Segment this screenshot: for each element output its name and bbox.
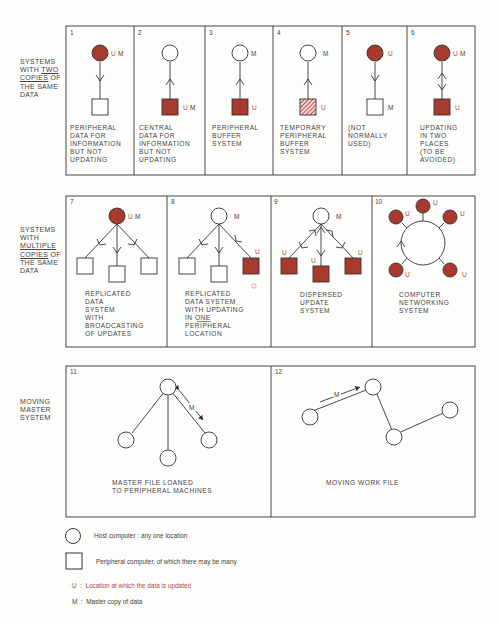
- host-computer-icon: [160, 450, 176, 466]
- svg-text:REPLICATED: REPLICATED: [85, 290, 131, 297]
- host-computer-icon: [162, 45, 178, 61]
- svg-text:USED): USED): [348, 140, 371, 148]
- host-computer-icon: [92, 45, 108, 61]
- svg-text:UPDATE: UPDATE: [300, 299, 329, 306]
- svg-text:M: M: [135, 213, 140, 220]
- svg-text:M: M: [336, 213, 341, 220]
- peripheral-computer-icon: [211, 266, 227, 282]
- legend-update: U : Location at which the data is update…: [72, 582, 191, 589]
- peripheral-computer-icon: [434, 99, 450, 115]
- svg-text:SYSTEM: SYSTEM: [212, 140, 242, 147]
- legend-host: Host computer : any one location: [94, 532, 187, 539]
- host-computer-icon: [443, 210, 457, 224]
- svg-text:U: U: [455, 104, 460, 111]
- svg-text:COMPUTER: COMPUTER: [399, 291, 441, 298]
- host-computer-icon: [232, 45, 248, 61]
- svg-text:INFORMATION: INFORMATION: [70, 140, 121, 147]
- peripheral-computer-icon: [232, 99, 248, 115]
- legend-icons: [66, 529, 83, 570]
- svg-text:IN ONE: IN ONE: [185, 314, 211, 321]
- svg-text:2: 2: [138, 29, 142, 36]
- svg-text:U: U: [388, 50, 393, 57]
- peripheral-computer-icon: [243, 258, 259, 274]
- panel-2: 2 UM CENTRAL DATA FOR INFORMATION BUT NO…: [138, 29, 195, 163]
- host-computer-icon: [443, 263, 457, 277]
- svg-text:U: U: [311, 257, 316, 264]
- svg-text:5: 5: [346, 29, 350, 36]
- svg-text:11: 11: [70, 368, 77, 375]
- host-computer-icon: [118, 432, 134, 448]
- peripheral-computer-icon: [281, 258, 297, 274]
- panel-12: 12 M MOVING WORK FILE: [275, 368, 458, 486]
- svg-text:MASTER FILE LOANED: MASTER FILE LOANED: [112, 479, 193, 486]
- svg-text:SYSTEM: SYSTEM: [85, 306, 115, 313]
- panel-10: 10 U U U U U COMPUTER NETWORKING SYSTEM: [375, 198, 467, 314]
- svg-text:M: M: [251, 50, 256, 57]
- panel-11: 11 M MASTER FILE LOANED TO PERIPHERAL MA…: [70, 368, 217, 494]
- host-computer-icon: [300, 45, 316, 61]
- svg-text:WITH UPDATING: WITH UPDATING: [185, 306, 244, 313]
- peripheral-computer-icon: [345, 258, 361, 274]
- legend-master: M : Master copy of data: [72, 598, 142, 605]
- svg-text:WITH: WITH: [85, 314, 104, 321]
- svg-text:M: M: [323, 50, 328, 57]
- network-ring: [401, 221, 445, 265]
- peripheral-computer-legend-icon: [66, 553, 82, 569]
- svg-text:1: 1: [70, 29, 74, 36]
- svg-text:U: U: [282, 249, 287, 256]
- svg-text:PERIPHERAL: PERIPHERAL: [212, 124, 259, 131]
- svg-text:SYSTEM: SYSTEM: [280, 148, 310, 155]
- svg-text:U: U: [252, 104, 257, 111]
- host-computer-icon: [109, 208, 125, 224]
- peripheral-computer-icon: [141, 258, 157, 274]
- svg-text:BUFFER: BUFFER: [212, 132, 241, 139]
- svg-text:8: 8: [171, 198, 175, 205]
- svg-text:U: U: [255, 248, 260, 255]
- legend-peripheral: Peripheral computer, of which there may …: [96, 558, 237, 565]
- svg-text:(NOT: (NOT: [348, 124, 366, 132]
- diagram-canvas: 1 UM PERIPHERAL DATA FOR INFORMATION BUT…: [0, 0, 499, 624]
- svg-text:U: U: [405, 271, 410, 278]
- svg-text:CENTRAL: CENTRAL: [139, 124, 173, 131]
- svg-text:PERIPHERAL: PERIPHERAL: [185, 322, 232, 329]
- svg-text:9: 9: [274, 198, 278, 205]
- svg-text:U: U: [321, 104, 326, 111]
- row-two-copies: [66, 26, 475, 175]
- svg-text:M: M: [388, 104, 393, 111]
- host-computer-icon: [313, 208, 329, 224]
- svg-text:OF UPDATES: OF UPDATES: [85, 330, 132, 337]
- host-computer-icon: [367, 45, 383, 61]
- svg-text:(TO BE: (TO BE: [420, 148, 445, 156]
- svg-text:SYSTEM: SYSTEM: [300, 307, 330, 314]
- svg-text:UPDATING: UPDATING: [70, 156, 108, 163]
- svg-text:M: M: [334, 391, 339, 398]
- svg-text:DATA FOR: DATA FOR: [70, 132, 106, 139]
- svg-text:AVOIDED): AVOIDED): [420, 156, 455, 164]
- host-computer-icon: [434, 45, 450, 61]
- panel-8: 8 M U REPLICATED DATA SYSTEM WITH UPDATI…: [171, 198, 260, 337]
- svg-text:M: M: [460, 50, 465, 57]
- svg-text:7: 7: [70, 198, 74, 205]
- svg-text:U: U: [460, 210, 465, 217]
- host-computer-icon: [302, 409, 318, 425]
- svg-text:REPLICATED: REPLICATED: [185, 290, 231, 297]
- peripheral-computer-icon: [162, 99, 178, 115]
- panel-1: 1 UM PERIPHERAL DATA FOR INFORMATION BUT…: [70, 29, 123, 163]
- host-computer-icon: [416, 199, 430, 213]
- svg-text:U: U: [183, 104, 188, 111]
- host-computer-icon: [211, 208, 227, 224]
- svg-text:U: U: [462, 271, 467, 278]
- svg-text:PERIPHERAL: PERIPHERAL: [70, 124, 117, 131]
- panel-9: 9 M U U U DISPERSED UPDATE SYSTEM: [274, 198, 363, 314]
- host-computer-icon: [365, 379, 381, 395]
- svg-text:M: M: [190, 104, 195, 111]
- peripheral-computer-icon: [367, 99, 383, 115]
- svg-text:4: 4: [277, 29, 281, 36]
- svg-text:TEMPORARY: TEMPORARY: [280, 124, 326, 131]
- temporary-peripheral-icon: [300, 99, 316, 115]
- svg-text:BUT NOT: BUT NOT: [139, 148, 171, 155]
- peripheral-computer-icon: [313, 266, 329, 282]
- panel-5: 5 U M (NOT NORMALLY USED): [346, 29, 393, 148]
- svg-text:U: U: [405, 210, 410, 217]
- panel-6: 6 UM U UPDATING IN TWO PLACES (TO BE AVO…: [411, 29, 465, 164]
